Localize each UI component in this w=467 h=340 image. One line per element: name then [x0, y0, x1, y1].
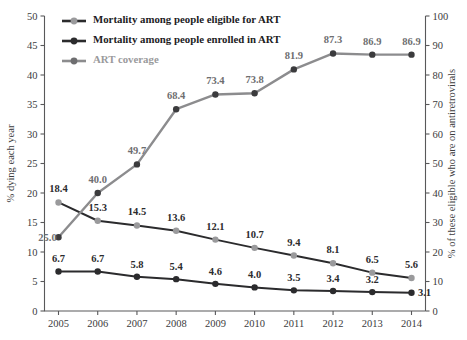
data-point[interactable]	[408, 51, 414, 57]
right-axis-title: % of these eligible who are on antiretro…	[446, 69, 457, 258]
data-point[interactable]	[330, 50, 336, 56]
data-point[interactable]	[251, 284, 257, 290]
legend-marker	[71, 58, 78, 65]
chart-legend: Mortality among people eligible for ARTM…	[62, 13, 281, 65]
data-point[interactable]	[330, 260, 336, 266]
data-label: 10.7	[245, 229, 263, 240]
right-axis-tick-label: 40	[433, 188, 444, 199]
left-axis-tick-label: 45	[27, 40, 38, 51]
data-point[interactable]	[212, 281, 218, 287]
right-axis-tick-label: 10	[433, 276, 444, 287]
data-point[interactable]	[291, 66, 297, 72]
legend-marker	[71, 38, 78, 45]
left-axis-tick-label: 15	[27, 217, 38, 228]
data-label: 12.1	[206, 221, 224, 232]
data-label: 86.9	[363, 36, 381, 47]
series-group	[55, 50, 414, 296]
left-axis-tick-label: 0	[32, 306, 37, 317]
left-axis-tick-label: 40	[27, 70, 38, 81]
data-label: 4.6	[209, 266, 222, 277]
left-axis-tick-label: 5	[32, 276, 37, 287]
data-label: 3.4	[326, 273, 340, 284]
left-axis-tick-label: 20	[27, 188, 38, 199]
series-line-2	[59, 53, 412, 237]
legend-item-1[interactable]: Mortality among people enrolled in ART	[62, 33, 281, 45]
x-axis-tick-label: 2013	[362, 318, 383, 329]
data-point[interactable]	[95, 190, 101, 196]
data-label: 6.5	[366, 254, 379, 265]
legend-marker	[71, 18, 78, 25]
data-label: 25.0	[38, 232, 56, 243]
right-axis-tick-label: 0	[433, 306, 438, 317]
left-axis-title: % dying each year	[5, 124, 16, 202]
data-point[interactable]	[134, 222, 140, 228]
right-axis-tick-label: 50	[433, 158, 444, 169]
data-label: 5.8	[130, 259, 143, 270]
series-line-0	[59, 202, 412, 278]
data-label: 6.7	[52, 253, 65, 264]
line-chart: 0510152025303540455001020304050607080901…	[0, 0, 467, 340]
x-axis-tick-label: 2011	[284, 318, 305, 329]
data-label: 18.4	[49, 183, 68, 194]
chart-container: 0510152025303540455001020304050607080901…	[0, 0, 467, 340]
data-point[interactable]	[173, 228, 179, 234]
data-label: 4.0	[248, 269, 261, 280]
left-axis-tick-label: 30	[27, 129, 38, 140]
x-axis-tick-label: 2007	[126, 318, 147, 329]
data-label: 73.4	[206, 75, 225, 86]
series-line-1	[59, 271, 412, 292]
legend-label: Mortality among people eligible for ART	[93, 13, 281, 25]
data-point[interactable]	[369, 289, 375, 295]
left-axis-tick-label: 25	[27, 158, 38, 169]
data-labels-group: 18.415.314.513.612.110.79.48.16.55.66.76…	[38, 34, 431, 298]
right-axis-tick-label: 90	[433, 40, 444, 51]
data-label: 87.3	[324, 34, 342, 45]
data-label: 3.2	[366, 274, 379, 285]
legend-label: Mortality among people enrolled in ART	[93, 33, 281, 45]
data-point[interactable]	[55, 199, 61, 205]
left-axis-tick-label: 50	[27, 11, 38, 22]
right-axis-tick-label: 100	[433, 11, 449, 22]
right-axis-tick-label: 60	[433, 129, 444, 140]
legend-item-2[interactable]: ART coverage	[62, 53, 159, 65]
left-axis-tick-label: 35	[27, 99, 38, 110]
data-point[interactable]	[134, 161, 140, 167]
data-point[interactable]	[212, 236, 218, 242]
data-point[interactable]	[291, 252, 297, 258]
x-axis-tick-label: 2009	[205, 318, 226, 329]
data-label: 5.6	[405, 259, 418, 270]
right-axis-tick-label: 80	[433, 70, 444, 81]
data-point[interactable]	[95, 268, 101, 274]
legend-label: ART coverage	[93, 53, 159, 65]
data-point[interactable]	[173, 106, 179, 112]
data-point[interactable]	[55, 268, 61, 274]
data-label: 6.7	[91, 253, 104, 264]
data-point[interactable]	[251, 90, 257, 96]
x-axis-tick-label: 2010	[244, 318, 265, 329]
legend-item-0[interactable]: Mortality among people eligible for ART	[62, 13, 281, 25]
data-label: 49.7	[128, 145, 146, 156]
data-point[interactable]	[251, 245, 257, 251]
data-label: 9.4	[287, 237, 301, 248]
x-axis-tick-label: 2006	[87, 318, 108, 329]
data-point[interactable]	[291, 287, 297, 293]
data-label: 40.0	[89, 174, 107, 185]
data-label: 68.4	[167, 90, 186, 101]
data-label: 73.8	[245, 74, 263, 85]
x-axis-tick-label: 2014	[401, 318, 423, 329]
data-label: 14.5	[128, 206, 146, 217]
data-point[interactable]	[212, 91, 218, 97]
right-axis-tick-label: 30	[433, 217, 444, 228]
x-axis-tick-label: 2005	[48, 318, 69, 329]
data-label: 15.3	[89, 202, 107, 213]
x-axis-tick-label: 2008	[166, 318, 187, 329]
data-label: 13.6	[167, 212, 185, 223]
data-point[interactable]	[95, 218, 101, 224]
data-point[interactable]	[369, 51, 375, 57]
data-point[interactable]	[408, 275, 414, 281]
data-point[interactable]	[134, 274, 140, 280]
data-point[interactable]	[330, 288, 336, 294]
data-label: 3.1	[418, 287, 431, 298]
data-point[interactable]	[408, 290, 414, 296]
data-point[interactable]	[173, 276, 179, 282]
